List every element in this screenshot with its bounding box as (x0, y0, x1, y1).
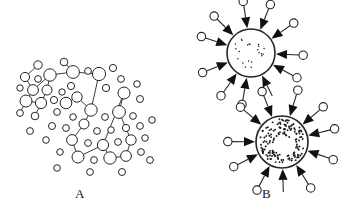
network-node (63, 125, 70, 132)
spoke-terminal-circle (329, 155, 337, 163)
interior-dot (302, 138, 304, 140)
spoke-terminal-circle (197, 32, 205, 40)
network-node (130, 113, 137, 120)
interior-dot (264, 149, 266, 151)
spoke-terminal-circle (224, 137, 232, 145)
interior-dot (265, 154, 267, 156)
interior-dot (279, 121, 281, 123)
interior-dot (296, 133, 298, 135)
interior-dot (286, 120, 288, 122)
network-node (27, 128, 34, 135)
network-node (85, 68, 92, 75)
network-node (138, 149, 145, 156)
interior-dot (298, 146, 300, 148)
interior-dot (274, 129, 276, 131)
network-node (35, 97, 46, 108)
interior-dot (267, 158, 269, 160)
spoke-terminal-circle (210, 12, 218, 20)
interior-dot (267, 132, 269, 134)
interior-dot (294, 131, 296, 133)
interior-dot (283, 128, 285, 130)
interior-dot (287, 129, 289, 131)
interior-dot (235, 48, 237, 50)
network-node (118, 87, 130, 99)
interior-dot (288, 125, 290, 127)
spoke-terminal-circle (319, 103, 327, 111)
network-node (70, 114, 77, 121)
interior-dot (258, 46, 260, 48)
interior-dot (288, 136, 290, 138)
network-node (119, 169, 126, 176)
interior-dot (267, 143, 269, 145)
network-node (113, 106, 126, 119)
network-node (94, 128, 101, 135)
interior-dot (275, 161, 277, 163)
interior-dot (283, 131, 285, 133)
interior-dot (284, 124, 286, 126)
interior-dot (269, 150, 271, 152)
interior-dot (262, 53, 264, 55)
interior-dot (296, 143, 298, 145)
network-node (43, 137, 50, 144)
spoke-terminal-circle (236, 103, 244, 111)
interior-dot (295, 159, 297, 161)
interior-dot (277, 156, 279, 158)
interior-dot (279, 131, 281, 133)
interior-dot (264, 140, 266, 142)
network-node (60, 97, 72, 109)
interior-dot (262, 150, 264, 152)
interior-dot (282, 159, 284, 161)
interior-dot (272, 141, 274, 143)
interior-dot (265, 145, 267, 147)
interior-dot (298, 140, 300, 142)
interior-dot (248, 43, 250, 45)
network-node (79, 119, 89, 129)
network-node (59, 89, 65, 95)
spoke-terminal-circle (239, 0, 247, 6)
interior-dot (287, 122, 289, 124)
network-node (104, 152, 116, 164)
interior-dot (270, 128, 272, 130)
interior-dot (277, 132, 279, 134)
network-node (67, 66, 80, 79)
network-node (92, 67, 105, 80)
interior-dot (279, 161, 281, 163)
interior-dot (235, 43, 237, 45)
network-node (42, 85, 52, 95)
spoke-terminal-circle (258, 87, 266, 95)
network-node (49, 123, 56, 130)
interior-dot (268, 135, 270, 137)
interior-dot (293, 152, 295, 154)
interior-dot (291, 160, 293, 162)
network-node (85, 104, 97, 116)
interior-dot (248, 60, 250, 62)
network-node (50, 96, 57, 103)
network-node (134, 81, 141, 88)
interior-dot (269, 129, 271, 131)
interior-dot (282, 161, 284, 163)
interior-dot (241, 40, 243, 42)
interior-dot (279, 154, 281, 156)
interior-dot (287, 155, 289, 157)
interior-dot (258, 52, 260, 54)
network-node (147, 157, 154, 164)
interior-dot (294, 129, 296, 131)
network-node (85, 140, 92, 147)
network-node (20, 72, 29, 81)
spoke-terminal-circle (299, 51, 307, 59)
interior-dot (299, 127, 301, 129)
interior-dot (261, 55, 263, 57)
spoke-terminal-circle (217, 92, 225, 100)
network-node (57, 149, 64, 156)
network-node (67, 82, 74, 89)
network-node (149, 117, 156, 124)
interior-dot (276, 135, 278, 137)
network-node (60, 58, 68, 66)
interior-dot (291, 158, 293, 160)
interior-dot (299, 136, 301, 138)
interior-dot (269, 155, 271, 157)
interior-dot (267, 126, 269, 128)
interior-dot (265, 127, 267, 129)
interior-dot (245, 66, 247, 68)
spoke-terminal-circle (330, 125, 338, 133)
